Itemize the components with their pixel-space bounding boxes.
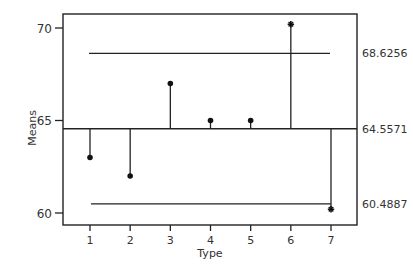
axes: 6065701234567 bbox=[37, 22, 335, 248]
lower-limit-label: 60.4887 bbox=[362, 198, 408, 211]
x-tick-label: 1 bbox=[87, 234, 94, 247]
x-axis-label: Type bbox=[196, 247, 222, 260]
dot-marker-icon bbox=[248, 118, 254, 124]
center-line-label: 64.5571 bbox=[362, 123, 408, 136]
dot-marker-icon bbox=[87, 155, 93, 161]
y-tick-label: 60 bbox=[37, 207, 52, 221]
x-tick-label: 2 bbox=[127, 234, 134, 247]
x-tick-label: 7 bbox=[328, 234, 335, 247]
analysis-of-means-chart: 68.625664.557160.4887 6065701234567 Mean… bbox=[0, 0, 413, 271]
decision-limits: 68.625664.557160.4887 bbox=[63, 47, 408, 211]
upper-limit-label: 68.6256 bbox=[362, 47, 408, 60]
y-tick-label: 70 bbox=[37, 22, 52, 36]
x-tick-label: 6 bbox=[287, 234, 294, 247]
data-stems bbox=[87, 21, 334, 212]
x-tick-label: 4 bbox=[207, 234, 214, 247]
x-tick-label: 5 bbox=[247, 234, 254, 247]
chart-canvas: 68.625664.557160.4887 6065701234567 Mean… bbox=[0, 0, 413, 271]
x-tick-label: 3 bbox=[167, 234, 174, 247]
dot-marker-icon bbox=[127, 173, 133, 179]
star-marker-icon bbox=[288, 21, 294, 27]
star-marker-icon bbox=[328, 206, 334, 212]
dot-marker-icon bbox=[168, 81, 174, 87]
y-tick-label: 65 bbox=[37, 114, 52, 128]
dot-marker-icon bbox=[208, 118, 214, 124]
y-axis-label: Means bbox=[26, 110, 39, 146]
